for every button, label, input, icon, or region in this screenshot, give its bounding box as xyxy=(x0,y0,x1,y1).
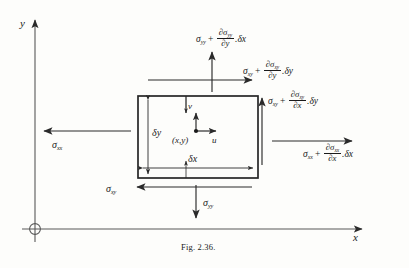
denominator-partial: ∂y xyxy=(221,38,229,48)
velocity-v-label: v xyxy=(188,102,192,111)
numerator-subscript: yy xyxy=(227,32,232,38)
top-normal-stress-label: σyy + ∂σyy ∂y .δx xyxy=(196,28,246,48)
right-shear-stress-label: σxy + ∂σxy ∂x .δy xyxy=(268,90,318,110)
partial-derivative-fraction: ∂σxy ∂y xyxy=(264,60,281,80)
delta-multiplier: .δy xyxy=(307,96,318,106)
left-normal-stress-label: σxx xyxy=(52,140,62,151)
denominator-partial: ∂x xyxy=(328,153,336,163)
sigma-subscript: xx xyxy=(308,154,313,160)
plus-operator: + xyxy=(255,66,260,76)
sigma-subscript: xy xyxy=(248,71,253,77)
numerator-subscript: xy xyxy=(274,64,279,70)
delta-y-label: δy xyxy=(152,128,161,138)
bottom-shear-stress-label: σxy xyxy=(106,184,116,195)
delta-multiplier: .δy xyxy=(282,66,293,76)
delta-multiplier: .δx xyxy=(342,149,353,159)
top-shear-stress-label: σxy + ∂σxy ∂y .δy xyxy=(243,60,293,80)
plus-operator: + xyxy=(280,96,285,106)
sigma-subscript: yy xyxy=(208,202,213,209)
plus-operator: + xyxy=(315,149,320,159)
plus-operator: + xyxy=(208,34,213,44)
denominator-partial: ∂x xyxy=(293,100,301,110)
sigma-subscript: xy xyxy=(111,188,116,195)
center-point-label: (x,y) xyxy=(172,136,188,145)
numerator-subscript: xy xyxy=(299,94,304,100)
denominator-partial: ∂y xyxy=(268,70,276,80)
partial-derivative-fraction: ∂σxx ∂x xyxy=(324,143,341,163)
sigma-subscript: yy xyxy=(201,39,206,45)
right-normal-stress-label: σxx + ∂σxx ∂x .δx xyxy=(303,143,353,163)
partial-derivative-fraction: ∂σxy ∂x xyxy=(289,90,306,110)
bottom-normal-stress-label: σyy xyxy=(203,198,213,209)
numerator-subscript: xx xyxy=(334,147,339,153)
stress-element-figure: y x σyy + ∂σyy ∂y .δx σxy + ∂σxy ∂y .δy … xyxy=(0,0,409,268)
sigma-subscript: xx xyxy=(57,144,62,151)
partial-derivative-fraction: ∂σyy ∂y xyxy=(217,28,234,48)
velocity-u-label: u xyxy=(212,136,217,145)
delta-x-label: δx xyxy=(188,154,197,164)
y-axis-label: y xyxy=(20,18,25,29)
x-axis-label: x xyxy=(353,232,358,243)
delta-multiplier: .δx xyxy=(235,34,246,44)
figure-caption: Fig. 2.36. xyxy=(181,242,216,252)
sigma-subscript: xy xyxy=(273,101,278,107)
